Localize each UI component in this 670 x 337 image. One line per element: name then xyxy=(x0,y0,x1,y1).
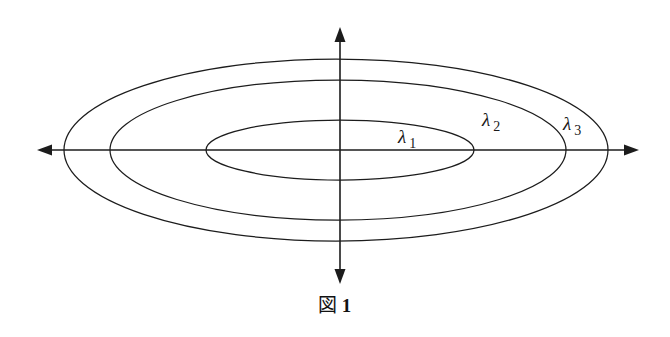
label-lambda-1: λ1 xyxy=(398,127,416,151)
figure-canvas xyxy=(0,0,670,337)
label-lambda-2: λ2 xyxy=(482,110,500,134)
figure-caption: 図1 xyxy=(0,290,670,317)
vertical-axis-bottom-arrowhead xyxy=(335,269,346,284)
lambda-subscript-3: 3 xyxy=(574,123,581,138)
vertical-axis-top-arrowhead xyxy=(335,27,346,42)
figure-caption-number: 1 xyxy=(342,295,353,316)
lambda-symbol-3: λ xyxy=(563,113,571,134)
lambda-symbol-1: λ xyxy=(398,126,406,147)
horizontal-axis-right-arrowhead xyxy=(624,145,639,156)
figure-caption-label: 図 xyxy=(318,295,338,316)
lambda-subscript-1: 1 xyxy=(409,136,416,151)
label-lambda-3: λ3 xyxy=(563,114,581,138)
lambda-subscript-2: 2 xyxy=(493,119,500,134)
figure-page: λ1 λ2 λ3 図1 xyxy=(0,0,670,337)
lambda-symbol-2: λ xyxy=(482,109,490,130)
horizontal-axis-left-arrowhead xyxy=(37,145,52,156)
